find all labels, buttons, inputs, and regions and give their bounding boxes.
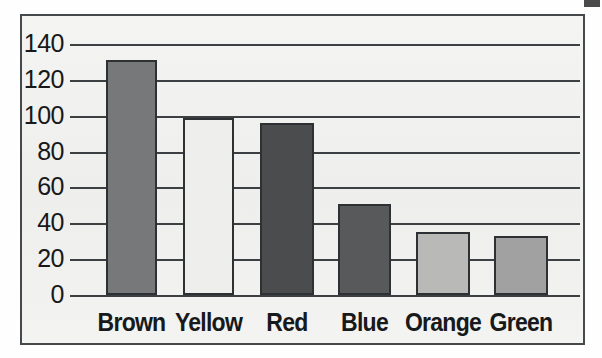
y-tick-label: 40 bbox=[0, 208, 64, 237]
y-tick-label: 60 bbox=[0, 172, 64, 201]
bar-red bbox=[260, 123, 314, 295]
bar-orange bbox=[416, 232, 470, 295]
y-axis-tick bbox=[70, 295, 88, 297]
gridline bbox=[88, 295, 580, 297]
chart-page: 020406080100120140 BrownYellowRedBlueOra… bbox=[0, 0, 602, 358]
bar-green bbox=[494, 236, 548, 295]
scan-artifact-mark bbox=[584, 0, 600, 7]
bar-blue bbox=[338, 204, 391, 295]
bar-brown bbox=[106, 60, 157, 295]
y-tick-label: 0 bbox=[0, 280, 64, 309]
y-axis-tick bbox=[70, 44, 88, 46]
y-axis-tick bbox=[70, 259, 88, 261]
y-axis-tick bbox=[70, 116, 88, 118]
plot-area bbox=[88, 44, 580, 295]
y-tick-label: 80 bbox=[0, 137, 64, 166]
y-axis-tick bbox=[70, 80, 88, 82]
y-tick-label: 20 bbox=[0, 244, 64, 273]
y-tick-label: 100 bbox=[0, 101, 64, 130]
y-tick-label: 140 bbox=[0, 29, 64, 58]
y-axis-tick bbox=[70, 152, 88, 154]
y-axis-tick bbox=[70, 223, 88, 225]
x-tick-label-green: Green bbox=[472, 308, 570, 337]
bar-yellow bbox=[183, 118, 234, 295]
y-tick-label: 120 bbox=[0, 65, 64, 94]
y-axis-tick bbox=[70, 187, 88, 189]
